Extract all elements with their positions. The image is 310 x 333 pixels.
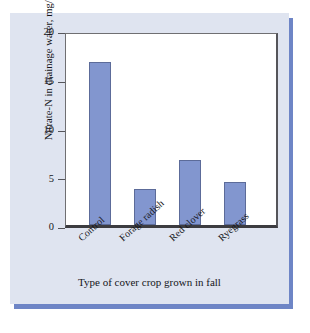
bars-container [66, 34, 276, 225]
y-tick-label-5: 5 [14, 174, 54, 185]
plot-area [65, 33, 278, 228]
y-tick-mark-5 [58, 179, 65, 180]
x-axis-title: Type of cover crop grown in fall [10, 276, 289, 288]
y-tick-label-15: 15 [14, 76, 54, 87]
y-tick-mark-10 [58, 131, 65, 132]
y-tick-label-10: 10 [14, 125, 54, 136]
y-tick-mark-0 [58, 228, 65, 229]
bar-control[interactable] [89, 62, 111, 225]
y-tick-mark-20 [58, 33, 65, 34]
figure-root: Nitrate-N in drainage water, mg/L 20 15 … [0, 0, 310, 333]
chart-panel: Nitrate-N in drainage water, mg/L 20 15 … [10, 13, 289, 304]
y-tick-mark-15 [58, 82, 65, 83]
y-tick-label-20: 20 [14, 27, 54, 38]
y-tick-label-0: 0 [14, 222, 54, 233]
y-axis-title: Nitrate-N in drainage water, mg/L [43, 0, 54, 140]
